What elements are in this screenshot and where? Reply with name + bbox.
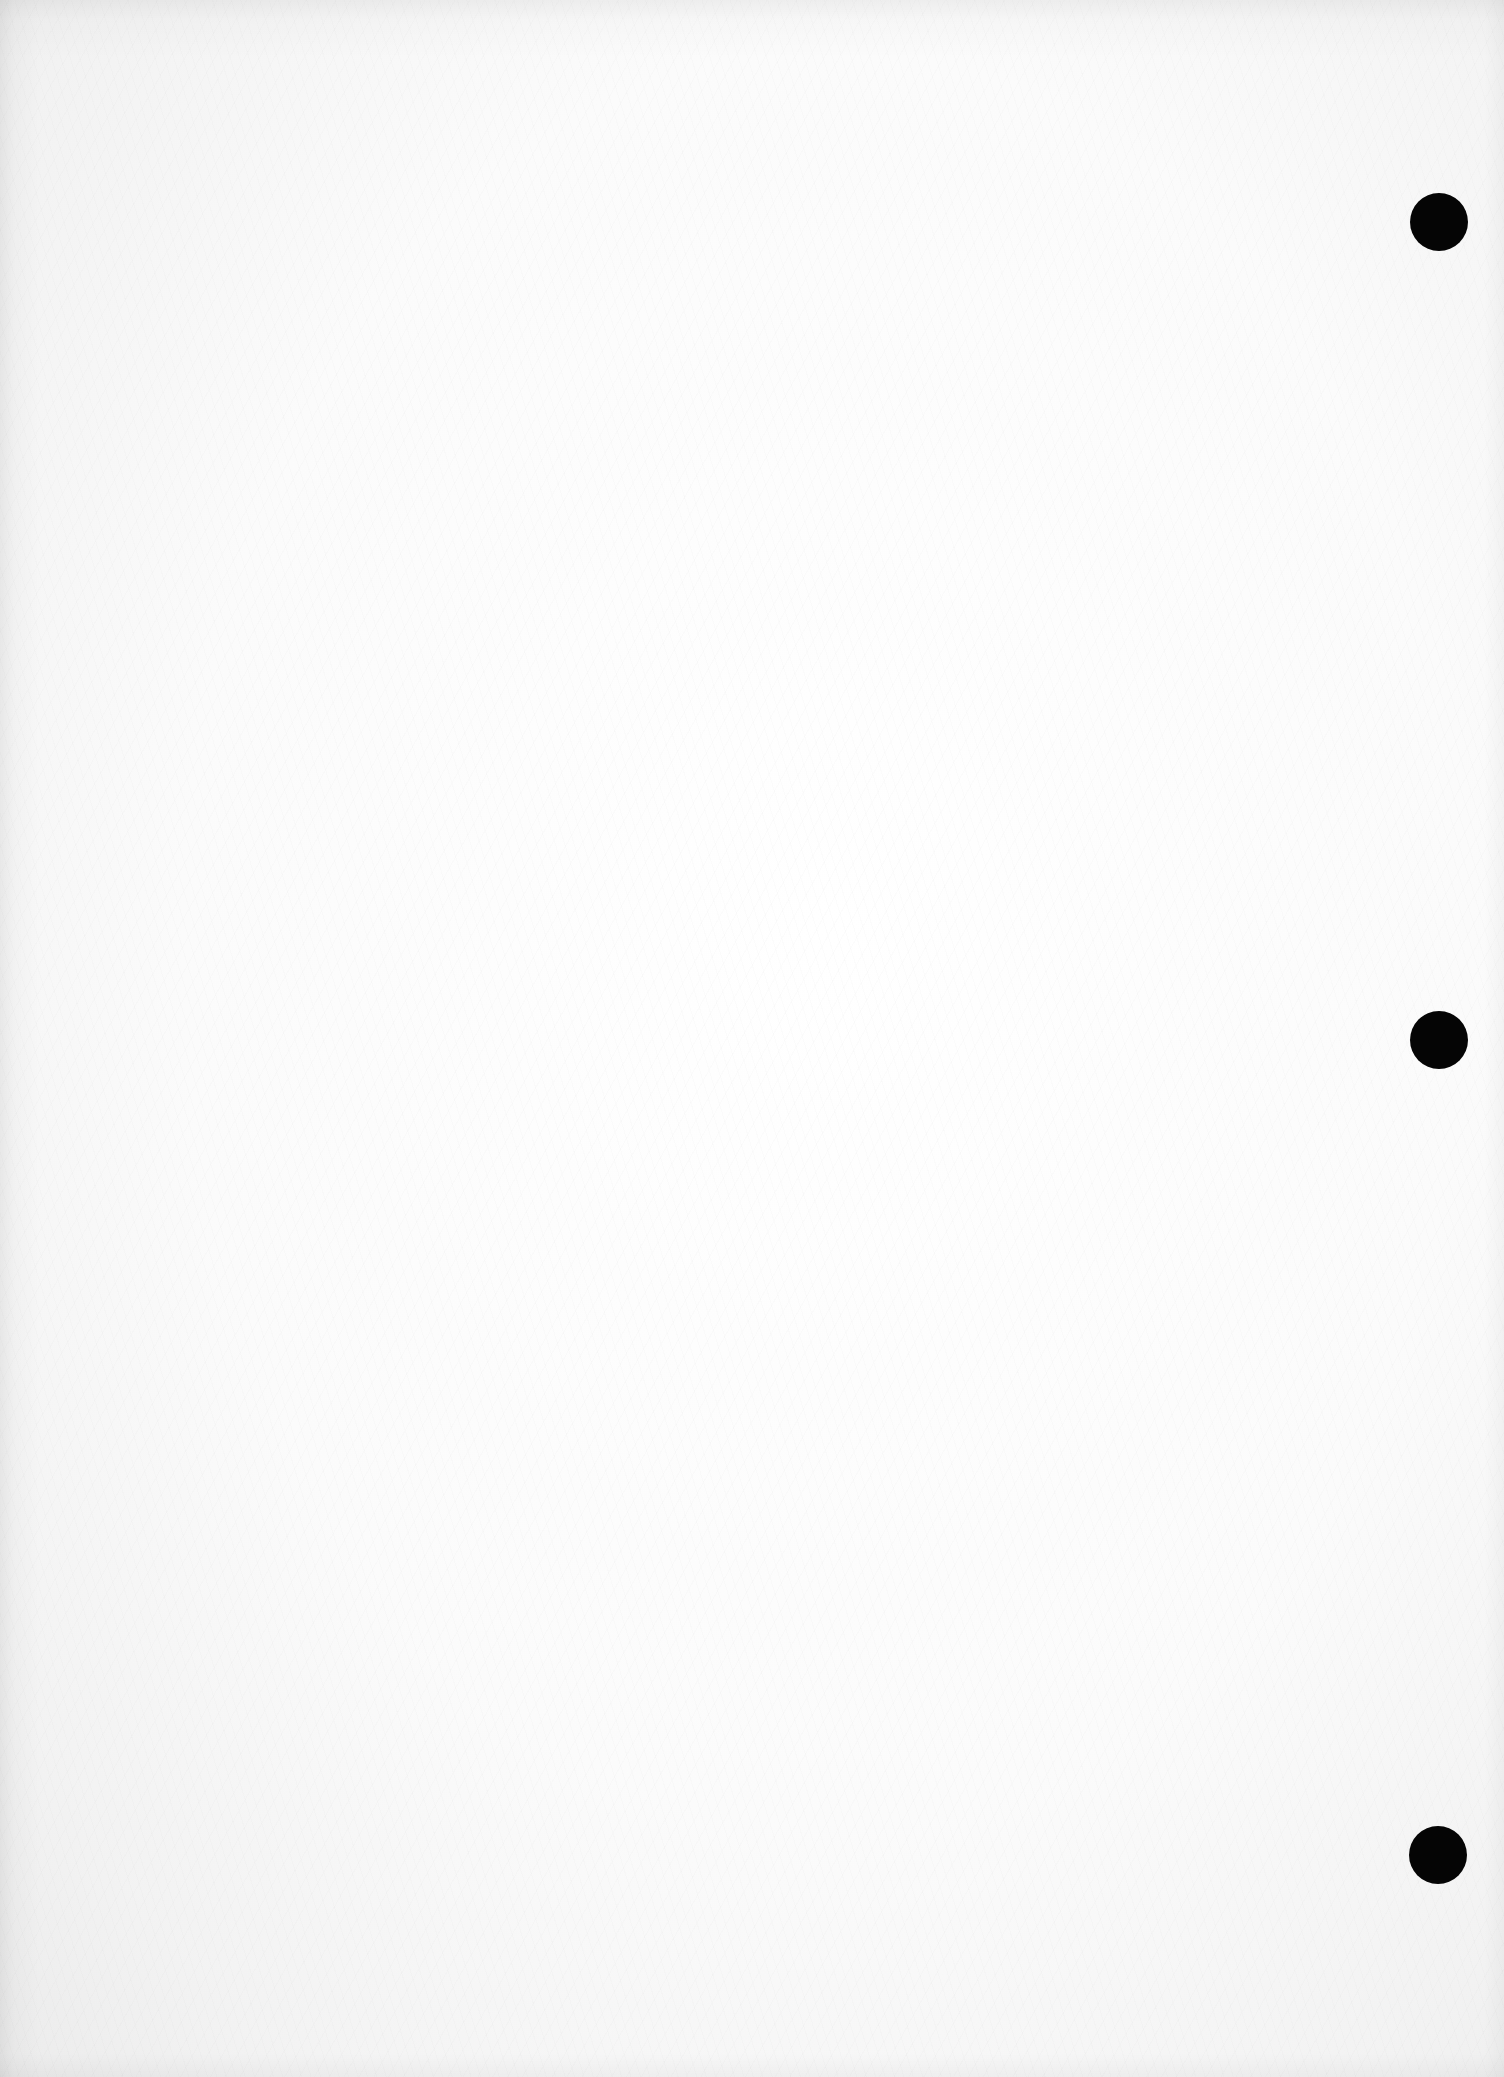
punch-hole-top [1410,193,1468,251]
punch-hole-bottom [1409,1826,1467,1884]
punch-hole-middle [1410,1011,1468,1069]
scanned-blank-page [0,0,1504,2077]
